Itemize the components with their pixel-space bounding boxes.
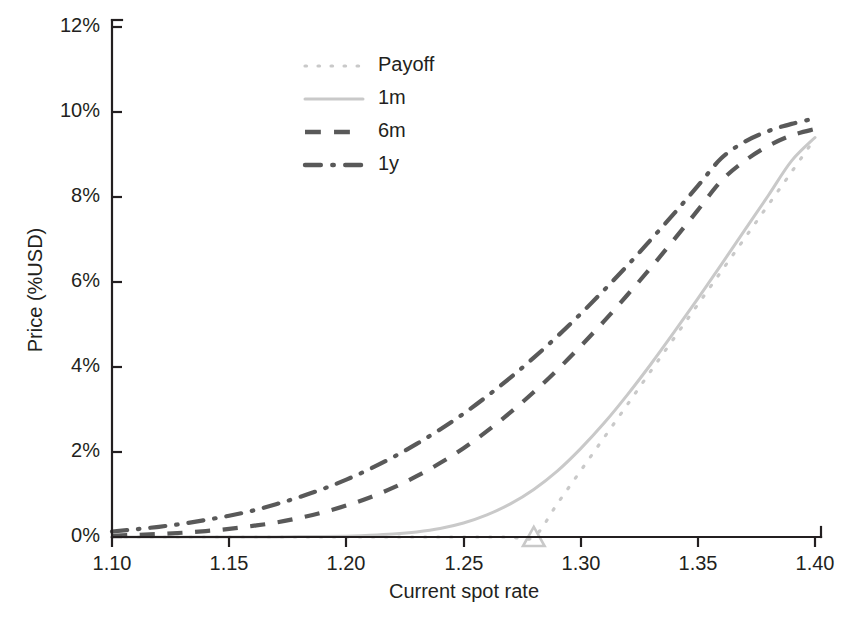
x-tick-label: 1.10: [93, 552, 132, 574]
line-chart: Price (%USD) Current spot rate 0% 2% 4% …: [0, 0, 857, 621]
y-tick-label: 10%: [60, 99, 100, 121]
y-tick-label: 0%: [71, 524, 100, 546]
x-tick-label: 1.20: [327, 552, 366, 574]
legend-label-payoff: Payoff: [378, 53, 435, 75]
x-tick-label: 1.40: [796, 552, 835, 574]
y-tick-label: 6%: [71, 269, 100, 291]
legend-label-1m: 1m: [378, 86, 406, 108]
chart-container: Price (%USD) Current spot rate 0% 2% 4% …: [0, 0, 857, 621]
x-tick-label: 1.15: [210, 552, 249, 574]
y-tick-label: 12%: [60, 14, 100, 36]
y-tick-label: 4%: [71, 354, 100, 376]
y-tick-label: 8%: [71, 184, 100, 206]
x-tick-label: 1.25: [445, 552, 484, 574]
x-axis-title: Current spot rate: [389, 580, 539, 602]
legend-label-6m: 6m: [378, 119, 406, 141]
y-axis-title: Price (%USD): [24, 228, 46, 352]
x-tick-label: 1.35: [679, 552, 718, 574]
y-tick-label: 2%: [71, 439, 100, 461]
legend-label-1y: 1y: [378, 152, 399, 174]
chart-background: [0, 0, 857, 621]
x-tick-label: 1.30: [562, 552, 601, 574]
